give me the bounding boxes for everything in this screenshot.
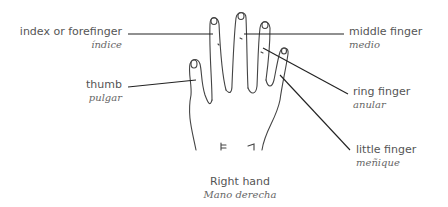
hand-drawing	[189, 13, 288, 151]
leader-lines	[128, 34, 350, 150]
label-little-es: meñique	[356, 156, 416, 169]
label-middle-es: medio	[349, 38, 422, 51]
label-middle: middle finger medio	[349, 25, 422, 51]
label-index: index or forefinger índice	[20, 25, 122, 51]
label-ring: ring finger anular	[353, 85, 410, 111]
label-ring-es: anular	[353, 98, 410, 111]
caption: Right hand Mano derecha	[190, 175, 290, 201]
label-thumb-en: thumb	[86, 78, 122, 91]
label-index-en: index or forefinger	[20, 25, 122, 38]
label-middle-en: middle finger	[349, 25, 422, 38]
label-thumb: thumb pulgar	[86, 78, 122, 104]
label-ring-en: ring finger	[353, 85, 410, 98]
label-little: little finger meñique	[356, 143, 416, 169]
label-little-en: little finger	[356, 143, 416, 156]
label-thumb-es: pulgar	[86, 91, 122, 104]
caption-en: Right hand	[190, 175, 290, 188]
caption-es: Mano derecha	[190, 188, 290, 201]
label-index-es: índice	[20, 38, 122, 51]
